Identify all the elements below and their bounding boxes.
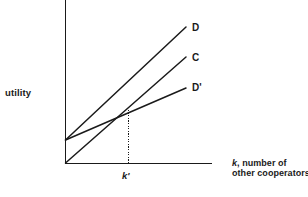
utility-cooperators-figure: utility k, number of other cooperators D…	[0, 0, 308, 197]
x-axis-tick-label-k-prime: k'	[122, 171, 130, 182]
line-D-prime	[66, 88, 187, 140]
series-label-D-prime: D'	[192, 82, 202, 94]
x-axis-label-line2: other cooperators	[232, 168, 308, 178]
line-D	[66, 27, 187, 140]
y-axis-label: utility	[5, 88, 31, 99]
x-axis-label: k, number of other cooperators	[232, 158, 308, 179]
x-axis-label-line1-rest: , number of	[237, 158, 287, 168]
series-label-D: D	[192, 22, 199, 34]
series-label-C: C	[192, 52, 199, 64]
line-C	[66, 57, 187, 163]
